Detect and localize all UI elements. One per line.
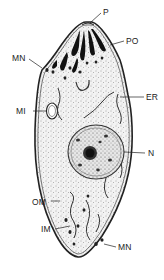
cell-diagram — [0, 0, 164, 280]
label-er: ER — [146, 93, 158, 102]
label-mn-bottom: MN — [118, 243, 132, 252]
label-mi: MI — [16, 107, 26, 116]
label-p: P — [103, 8, 109, 17]
label-om: OM — [32, 198, 46, 207]
label-im: IM — [41, 225, 51, 234]
label-mn-top: MN — [12, 54, 26, 63]
label-n: N — [148, 149, 154, 158]
label-po: PO — [126, 37, 139, 46]
